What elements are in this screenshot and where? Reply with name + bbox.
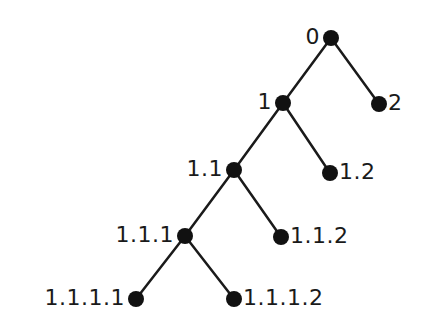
edge-1-to-1.2	[283, 103, 330, 173]
node-1.1.1.1	[128, 291, 144, 307]
edge-1.1.1-to-1.1.1.2	[185, 236, 234, 299]
node-1.1.1	[177, 228, 193, 244]
node-label: 1.1.1.1	[45, 287, 125, 309]
node-2	[371, 96, 387, 112]
node-1.1.1.2	[226, 291, 242, 307]
node-1.2	[322, 165, 338, 181]
node-label: 1.2	[339, 161, 376, 183]
node-1.1	[226, 162, 242, 178]
node-label: 2	[388, 92, 403, 114]
node-1	[275, 95, 291, 111]
node-label: 1.1.1.2	[243, 287, 323, 309]
node-label: 1.1.2	[290, 225, 348, 247]
node-0	[323, 30, 339, 46]
edge-1.1-to-1.1.2	[234, 170, 281, 237]
node-label: 1	[258, 91, 273, 113]
tree-diagram: 0121.11.21.1.11.1.21.1.1.11.1.1.2	[0, 0, 431, 330]
node-label: 0	[306, 26, 321, 48]
edge-0-to-2	[331, 38, 379, 104]
node-label: 1.1.1	[116, 224, 174, 246]
node-label: 1.1	[187, 158, 224, 180]
node-1.1.2	[273, 229, 289, 245]
